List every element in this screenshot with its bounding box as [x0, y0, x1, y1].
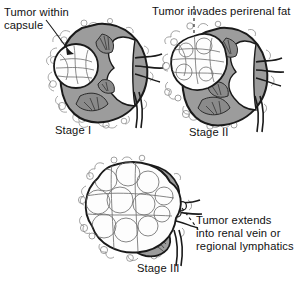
tumor-mass — [54, 44, 98, 88]
stage-3-caption: Stage III — [137, 262, 223, 275]
stage-3-annotation: Tumor extends into renal vein or regiona… — [196, 214, 304, 254]
stage-1-illustration — [40, 18, 170, 130]
stage-2-illustration — [160, 20, 290, 132]
stage-1-annotation: Tumor within capsule — [4, 6, 112, 32]
stage-2-caption: Stage II — [189, 126, 275, 139]
renal-carcinoma-staging-figure: Tumor within capsule Stage I — [0, 0, 304, 290]
tumor-mass — [170, 34, 227, 90]
stage-1-caption: Stage I — [55, 124, 135, 137]
stage-2-annotation: Tumor invades perirenal fat — [152, 5, 304, 18]
